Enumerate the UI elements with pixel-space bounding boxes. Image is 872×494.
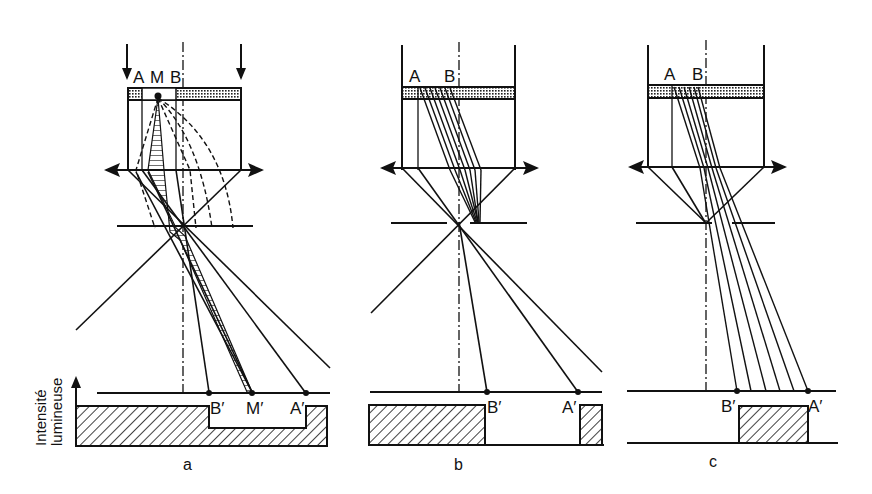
caption-a: a: [183, 456, 192, 473]
arrow-down-icon: [122, 68, 132, 80]
label-b: B: [692, 65, 703, 84]
intensity-profile: [369, 405, 485, 445]
label-a-prime: A′: [808, 397, 823, 416]
specimen-layer: [402, 87, 515, 99]
label-b-prime: B′: [487, 398, 502, 417]
optics-diagram: A M B B′ M′ A′ a Intensité lumineuse: [0, 0, 872, 494]
label-a: A: [664, 65, 676, 84]
label-b: B: [170, 68, 181, 87]
caption-b: b: [454, 456, 463, 473]
panel-a: A M B B′ M′ A′ a Intensité lumineuse: [32, 42, 330, 473]
axis-arrow-up-icon: [71, 376, 81, 388]
caption-c: c: [709, 453, 717, 470]
intensity-profile: [739, 406, 808, 443]
y-axis-label-line1: Intensité: [32, 389, 49, 446]
label-a: A: [409, 67, 421, 86]
label-b-prime: B′: [721, 397, 736, 416]
label-m: M: [150, 68, 164, 87]
label-m-prime: M′: [246, 399, 263, 418]
label-b: B: [444, 67, 455, 86]
label-a: A: [133, 68, 145, 87]
specimen-layer: [648, 85, 764, 98]
y-axis-label-line2: lumineuse: [48, 378, 65, 446]
arrow-down-icon: [236, 68, 246, 80]
label-b-prime: B′: [210, 399, 225, 418]
label-a-prime: A′: [562, 398, 577, 417]
label-a-prime: A′: [290, 399, 305, 418]
panel-b: A B B′ A′ b: [369, 42, 604, 473]
panel-c: A B B′ A′ c: [627, 40, 838, 470]
